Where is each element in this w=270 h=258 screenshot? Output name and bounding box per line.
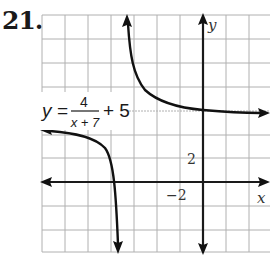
x-axis [40,177,270,187]
curve-right-branch [122,14,270,118]
equation-label: y = 4 x + 7 + 5 [40,92,130,130]
x-tick-label-minus-2: −2 [166,187,187,203]
graph: y x 2 −2 y = 4 x + 7 + 5 [0,0,270,258]
y-tick-label-2: 2 [187,151,196,167]
equation-numerator: 4 [80,94,88,110]
y-axis-label: y [207,16,217,34]
x-axis-label: x [257,189,266,207]
equation-denominator: x + 7 [70,115,100,130]
equation-constant: + 5 [103,100,130,121]
y-axis [198,13,208,255]
equation-lhs: y = [40,100,68,121]
